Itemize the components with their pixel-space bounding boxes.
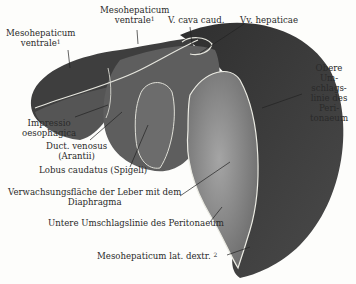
label-verwachsungsflaeche: Verwachsungsfläche der Leber mit dem Dia…	[8, 187, 181, 207]
label-text: oesophagica	[22, 128, 76, 138]
label-text: ventrale	[115, 15, 151, 25]
label-text: Duct. venosus	[46, 141, 107, 151]
label-lobus-caudatus: Lobus caudatus (Spigeli)	[39, 165, 147, 175]
label-text: Impressio	[22, 118, 76, 128]
label-text: tonaeum	[310, 113, 348, 123]
label-mesohepaticum-lat-dextr: Mesohepaticum lat. dextr. 2	[97, 251, 217, 261]
footnote-marker: 1	[151, 15, 155, 22]
label-mesohepaticum-ventrale-left: Mesohepaticum ventrale1	[6, 28, 75, 48]
label-v-cava: V. cava caud.	[168, 15, 225, 25]
label-text: Verwachsungsfläche der Leber mit dem	[8, 187, 181, 197]
label-text: Mesohepaticum	[6, 28, 75, 38]
bare-area	[187, 72, 258, 268]
label-text: ventrale	[21, 38, 57, 48]
label-obere-umschlagslinie: Obere Um- schlags- linie des Peri- tonae…	[310, 63, 348, 123]
label-text: (Arantii)	[46, 151, 107, 161]
label-text: linie des	[310, 93, 348, 103]
footnote-marker: 2	[213, 251, 217, 258]
label-duct-venosus: Duct. venosus (Arantii)	[46, 141, 107, 161]
label-vv-hepaticae: Vv. hepaticae	[240, 15, 298, 25]
label-text: Diaphragma	[8, 197, 181, 207]
label-impressio-oesophagica: Impressio oesophagica	[22, 118, 76, 138]
label-text: Um-	[310, 73, 348, 83]
footnote-marker: 1	[57, 38, 61, 45]
label-text: schlags-	[310, 83, 348, 93]
label-text: Mesohepaticum	[100, 5, 169, 15]
label-text: Obere	[310, 63, 348, 73]
label-text: Peri-	[310, 103, 348, 113]
liver-diagram: Mesohepaticum ventrale1 Mesohepaticum ve…	[0, 0, 356, 284]
label-text: Mesohepaticum lat. dextr.	[97, 251, 211, 261]
label-untere-umschlagslinie: Untere Umschlagslinie des Peritonaeum	[48, 218, 224, 228]
label-mesohepaticum-ventrale-top: Mesohepaticum ventrale1	[100, 5, 169, 25]
